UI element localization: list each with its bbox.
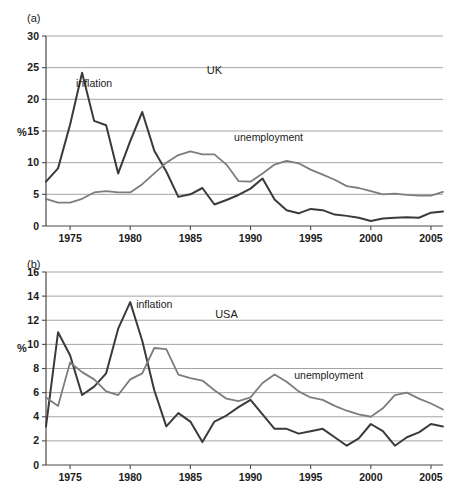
x-tick-label: 1985 (179, 471, 203, 483)
x-tick-label: 2005 (419, 471, 443, 483)
y-tick-label: 10 (27, 156, 39, 168)
usa-line-chart-svg: 0246810121416197519801985199019952000200… (0, 246, 457, 492)
x-tick-label: 1975 (58, 232, 82, 244)
y-tick-label: 10 (27, 338, 39, 350)
scan-artifact-b (295, 22, 305, 31)
x-tick-label: 1990 (239, 232, 263, 244)
chart-title-label: UK (207, 64, 223, 76)
x-tick-label: 1980 (119, 232, 143, 244)
scan-artifact-a (128, 22, 141, 31)
uk-line-chart-svg: 0510152025301975198019851990199520002005… (0, 0, 457, 250)
x-tick-label: 2005 (419, 232, 443, 244)
y-tick-label: 6 (33, 386, 39, 398)
x-tick-label: 1980 (119, 471, 143, 483)
series-annotation-unemployment: unemployment (294, 369, 363, 381)
y-tick-label: 0 (33, 220, 39, 232)
series-line-unemployment (46, 348, 443, 417)
series-line-inflation (46, 302, 443, 446)
y-tick-label: 14 (27, 290, 39, 302)
y-tick-label: 8 (33, 362, 39, 374)
y-tick-label: 30 (27, 30, 39, 42)
x-tick-label: 1975 (58, 471, 82, 483)
y-tick-label: 0 (33, 459, 39, 471)
chart-title-label: USA (215, 308, 238, 320)
y-tick-label: 5 (33, 188, 39, 200)
y-tick-label: 2 (33, 434, 39, 446)
series-line-inflation (46, 73, 443, 221)
y-tick-label: 25 (27, 61, 39, 73)
series-annotation-inflation: inflation (76, 77, 112, 89)
chart-panel-uk: (a) % 0510152025301975198019851990199520… (0, 0, 457, 250)
y-tick-label: 4 (33, 410, 39, 422)
x-tick-label: 1990 (239, 471, 263, 483)
series-line-unemployment (46, 151, 443, 202)
y-tick-label: 15 (27, 125, 39, 137)
chart-panel-usa: (b) % 0246810121416197519801985199019952… (0, 246, 457, 492)
y-tick-label: 12 (27, 314, 39, 326)
x-tick-label: 1995 (299, 232, 323, 244)
x-tick-label: 1985 (179, 232, 203, 244)
y-tick-label: 16 (27, 266, 39, 278)
x-tick-label: 2000 (359, 232, 383, 244)
x-tick-label: 2000 (359, 471, 383, 483)
series-annotation-inflation: inflation (136, 298, 172, 310)
y-tick-label: 20 (27, 93, 39, 105)
x-tick-label: 1995 (299, 471, 323, 483)
series-annotation-unemployment: unemployment (234, 131, 303, 143)
